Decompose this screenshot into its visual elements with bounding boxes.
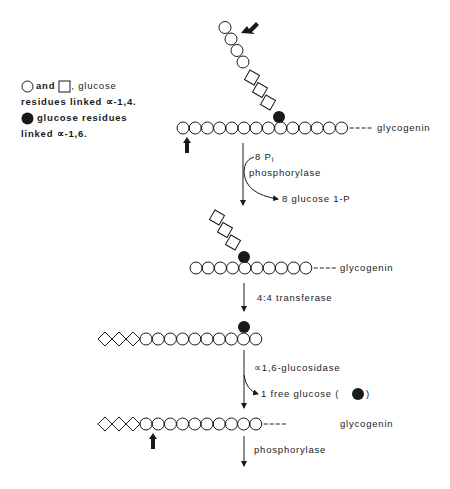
legend-line-1: and , glucose — [21, 78, 171, 94]
alpha14-residue-circle — [164, 418, 176, 430]
alpha14-residue-circle — [226, 122, 238, 134]
glycogenin-label-4: glycogenin — [340, 418, 393, 429]
alpha16-branch-residue — [238, 321, 250, 333]
alpha14-residue-circle — [189, 418, 201, 430]
alpha14-residue-circle — [300, 262, 312, 274]
step3-curve — [244, 375, 258, 394]
alpha14-residue-circle — [336, 122, 348, 134]
glycogenin-label-1: glycogenin — [377, 122, 430, 133]
alpha14-residue-circle — [275, 122, 287, 134]
reaction-arrows — [243, 143, 278, 466]
alpha14-residue-diamond — [112, 332, 126, 346]
up-marker-arrow-icon — [183, 137, 191, 153]
alpha14-branch-circle — [237, 56, 249, 68]
step1-enzyme: phosphorylase — [249, 167, 321, 178]
step3-product-close: ) — [366, 388, 370, 399]
alpha14-residue-circle — [250, 122, 262, 134]
alpha14-residue-circle — [250, 333, 262, 345]
alpha14-residue-circle — [214, 262, 226, 274]
alpha14-branch-circle — [219, 22, 231, 34]
legend-and: and — [36, 78, 55, 94]
step1-reagent-sub: i — [272, 156, 274, 163]
alpha14-residue-circle — [152, 333, 164, 345]
alpha14-residue-circle — [177, 418, 189, 430]
alpha14-residue-circle — [225, 333, 237, 345]
alpha14-residue-circle — [288, 262, 300, 274]
alpha14-residue-circle — [263, 262, 275, 274]
alpha14-residue-circle — [238, 418, 250, 430]
alpha16-branch-residue — [238, 251, 250, 263]
alpha14-residue-circle — [189, 122, 201, 134]
alpha14-residue-circle — [177, 333, 189, 345]
alpha14-residue-diamond — [126, 332, 140, 346]
alpha14-residue-circle — [275, 262, 287, 274]
alpha14-residue-circle — [201, 418, 213, 430]
alpha14-residue-circle — [323, 122, 335, 134]
open-circle-icon — [21, 80, 34, 93]
alpha14-branch-circle — [225, 33, 237, 45]
alpha14-residue-circle — [251, 262, 263, 274]
step2-enzyme: 4:4 transferase — [257, 292, 332, 303]
alpha16-branch-residue — [273, 111, 285, 123]
legend-text-1: , glucose — [71, 78, 116, 94]
alpha14-residue-circle — [177, 122, 189, 134]
legend-line-3: glucose residues — [21, 110, 171, 126]
glycogen-degradation-diagram — [0, 0, 450, 489]
alpha14-residue-circle — [299, 122, 311, 134]
alpha14-residue-circle — [213, 333, 225, 345]
glycogenin-label-2: glycogenin — [340, 262, 393, 273]
alpha14-residue-circle — [227, 262, 239, 274]
alpha14-residue-circle — [287, 122, 299, 134]
free-glucose-icon — [352, 388, 364, 400]
alpha14-residue-diamond — [98, 332, 112, 346]
alpha14-residue-diamond — [98, 417, 112, 431]
legend-line-2: residues linked ∝-1,4. — [21, 94, 171, 110]
legend-text-3: glucose residues — [37, 110, 127, 126]
legend-line-4: linked ∝-1,6. — [21, 126, 171, 142]
alpha14-residue-circle — [140, 333, 152, 345]
alpha14-residue-circle — [238, 122, 250, 134]
alpha14-residue-circle — [262, 122, 274, 134]
alpha14-residue-circle — [152, 418, 164, 430]
alpha14-residue-circle — [140, 418, 152, 430]
alpha14-residue-circle — [201, 122, 213, 134]
alpha14-residue-circle — [164, 333, 176, 345]
alpha14-residue-circle — [238, 333, 250, 345]
alpha14-residue-circle — [214, 122, 226, 134]
filled-circle-icon — [21, 112, 34, 125]
step4-enzyme: phosphorylase — [254, 444, 326, 455]
step1-reagent: 8 Pi — [255, 151, 274, 163]
alpha14-residue-circle — [250, 418, 262, 430]
legend: and , glucose residues linked ∝-1,4. glu… — [21, 78, 171, 142]
alpha14-residue-circle — [190, 262, 202, 274]
diagonal-marker-arrow-icon — [241, 22, 259, 34]
alpha14-residue-circle — [213, 418, 225, 430]
step1-curve — [244, 157, 278, 199]
alpha14-residue-circle — [311, 122, 323, 134]
alpha14-residue-diamond — [112, 417, 126, 431]
up-marker-arrow-icon-2 — [149, 433, 157, 449]
open-square-icon — [58, 80, 71, 93]
alpha14-residue-circle — [239, 262, 251, 274]
alpha14-residue-circle — [202, 262, 214, 274]
step1-reagent-text: 8 P — [255, 151, 272, 162]
step3-product: 1 free glucose ( — [261, 388, 339, 399]
step3-enzyme: ∝1,6-glucosidase — [254, 362, 340, 373]
step1-product: 8 glucose 1-P — [282, 193, 351, 204]
alpha14-residue-circle — [225, 418, 237, 430]
alpha14-residue-circle — [201, 333, 213, 345]
alpha14-residue-diamond — [126, 417, 140, 431]
alpha14-branch-circle — [231, 45, 243, 57]
alpha14-residue-circle — [189, 333, 201, 345]
